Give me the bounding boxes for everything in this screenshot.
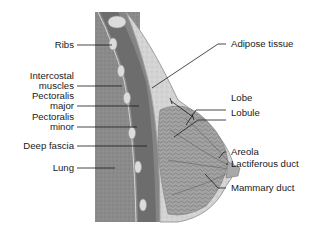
label-pectoralis-major-line2: major <box>50 101 74 111</box>
label-ribs: Ribs <box>55 40 74 50</box>
label-lobule: Lobule <box>231 108 260 118</box>
label-deep-fascia: Deep fascia <box>23 141 74 151</box>
label-pectoralis-minor-line2: minor <box>50 122 74 132</box>
label-areola: Areola <box>231 147 259 157</box>
label-mammary-duct: Mammary duct <box>231 183 294 193</box>
label-lobe: Lobe <box>231 93 252 103</box>
label-lactiferous-duct: Lactiferous duct <box>231 159 299 169</box>
label-adipose-tissue: Adipose tissue <box>231 39 293 49</box>
label-lung: Lung <box>53 163 74 173</box>
